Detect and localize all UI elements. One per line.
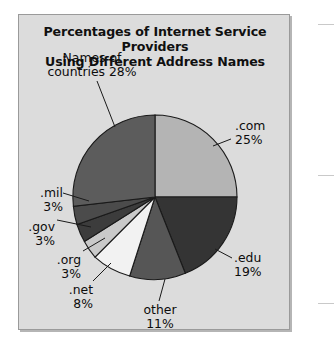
pie-slices (73, 115, 237, 280)
pie-slice-com[interactable] (155, 115, 237, 197)
pie-chart: Names of countries 28% .com 25% .edu 19%… (19, 15, 291, 331)
pie-label-gov: .gov 3% (3, 220, 55, 247)
pie-label-names-of-countries-line-2: countries 28% (47, 64, 136, 79)
pie-label-other-line-2: 11% (146, 316, 174, 331)
pie-label-edu-line-2: 19% (234, 264, 262, 279)
pie-label-org: .org 3% (15, 253, 81, 280)
pie-label-edu: .edu 19% (234, 251, 262, 278)
pie-label-com: .com 25% (235, 119, 265, 146)
leader-line-net (93, 263, 111, 281)
pie-label-org-line-2: 3% (61, 266, 81, 281)
page-rule-mark-top (318, 24, 334, 25)
pie-label-other: other 11% (129, 303, 191, 330)
figure-root: Percentages of Internet Service Provider… (0, 0, 334, 352)
page-rule-mark-bottom (318, 303, 334, 304)
pie-label-net-line-2: 8% (73, 296, 93, 311)
pie-slice-names-of-countries[interactable] (73, 115, 155, 206)
pie-label-net: .net 8% (27, 283, 93, 310)
leader-line-names-of-countries (97, 81, 115, 127)
pie-label-com-line-2: 25% (235, 132, 263, 147)
pie-label-names-of-countries: Names of countries 28% (27, 51, 157, 78)
pie-label-mil: .mil 3% (13, 186, 63, 213)
leader-line-other (159, 279, 165, 301)
pie-label-gov-line-2: 3% (35, 233, 55, 248)
chart-panel: Percentages of Internet Service Provider… (18, 14, 290, 330)
pie-label-mil-line-2: 3% (43, 199, 63, 214)
leader-line-edu (215, 249, 232, 258)
page-rule-mark-middle (318, 175, 334, 176)
